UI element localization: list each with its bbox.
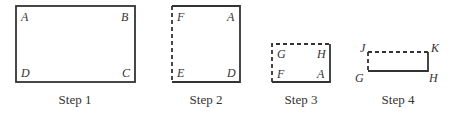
folding-diagram: A B D C Step 1 F A E D Step 2 G H F A St… bbox=[0, 0, 454, 114]
step-2-caption: Step 2 bbox=[190, 92, 223, 107]
label-h: H bbox=[428, 71, 439, 85]
label-c: C bbox=[122, 66, 131, 80]
label-d: D bbox=[20, 66, 30, 80]
label-f: F bbox=[176, 10, 185, 24]
step-3-caption: Step 3 bbox=[285, 92, 318, 107]
step-1-rectangle bbox=[16, 6, 135, 82]
label-b: B bbox=[121, 10, 129, 24]
label-f: F bbox=[276, 67, 285, 81]
label-a: A bbox=[316, 67, 325, 81]
step-3: G H F A Step 3 bbox=[272, 44, 330, 107]
label-g: G bbox=[355, 71, 364, 85]
label-a: A bbox=[226, 10, 235, 24]
label-d: D bbox=[226, 66, 236, 80]
step-4-caption: Step 4 bbox=[382, 92, 415, 107]
label-k: K bbox=[430, 41, 440, 55]
label-h: H bbox=[316, 47, 327, 61]
step-2: F A E D Step 2 bbox=[172, 6, 240, 107]
step-4-solid-edges bbox=[368, 52, 428, 71]
label-j: J bbox=[360, 41, 366, 55]
label-a: A bbox=[20, 10, 29, 24]
step-4: J K G H Step 4 bbox=[355, 41, 440, 107]
step-1-caption: Step 1 bbox=[59, 92, 92, 107]
step-1: A B D C Step 1 bbox=[16, 6, 135, 107]
label-e: E bbox=[176, 66, 185, 80]
label-g: G bbox=[277, 47, 286, 61]
